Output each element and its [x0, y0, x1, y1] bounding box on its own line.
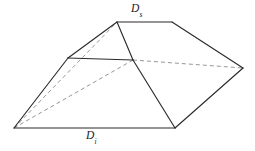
bottom-diameter-label: Di — [86, 130, 97, 144]
frustum-figure: Ds Di — [0, 0, 255, 151]
bottom-diameter-label-base: D — [86, 129, 94, 141]
top-diameter-label-subscript: s — [140, 10, 143, 19]
frustum-drawing — [0, 0, 255, 151]
bottom-diameter-label-subscript: i — [95, 137, 97, 146]
top-diameter-label-base: D — [131, 2, 139, 14]
top-diameter-label: Ds — [131, 3, 142, 17]
